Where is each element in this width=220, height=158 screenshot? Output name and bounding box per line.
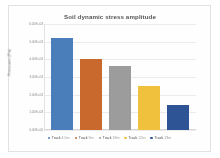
legend-label: Track 22m — [129, 136, 146, 140]
legend-label: Track 9m — [79, 136, 94, 140]
legend-swatch-icon — [75, 137, 78, 140]
bar — [167, 105, 189, 130]
y-tick-label: 6.00E+03 — [16, 22, 43, 26]
legend-swatch-icon — [124, 137, 127, 140]
legend-item[interactable]: Track 23m — [150, 136, 171, 140]
legend-label: Track 23m — [155, 136, 172, 140]
y-axis-title: Pressure (Pa) — [7, 40, 12, 86]
gridline — [44, 130, 196, 131]
legend-swatch-icon — [99, 137, 102, 140]
bar-series — [44, 24, 196, 130]
chart-legend: Track 4.5mTrack 9mTrack 18mTrack 22mTrac… — [8, 136, 211, 140]
y-tick-label: 3.00E+03 — [16, 75, 43, 79]
legend-label: Track 18m — [103, 136, 120, 140]
legend-label: Track 4.5m — [52, 136, 70, 140]
legend-item[interactable]: Track 4.5m — [48, 136, 70, 140]
legend-item[interactable]: Track 22m — [124, 136, 145, 140]
y-tick-label: 1.00E+03 — [16, 110, 43, 114]
y-tick-label: 0.00E+00 — [16, 128, 43, 132]
bar — [51, 38, 73, 130]
bar — [138, 86, 160, 130]
legend-item[interactable]: Track 18m — [99, 136, 120, 140]
y-tick-label: 4.00E+03 — [16, 57, 43, 61]
legend-item[interactable]: Track 9m — [75, 136, 94, 140]
bar — [109, 66, 131, 130]
y-tick-label: 2.00E+03 — [16, 93, 43, 97]
chart-figure: Soil dynamic stress amplitude Pressure (… — [0, 0, 220, 158]
legend-swatch-icon — [150, 137, 153, 140]
legend-swatch-icon — [48, 137, 51, 140]
plot-area — [44, 24, 196, 130]
y-axis-tick-labels: 0.00E+001.00E+032.00E+033.00E+034.00E+03… — [16, 20, 43, 134]
y-tick-label: 5.00E+03 — [16, 40, 43, 44]
bar — [80, 59, 102, 130]
